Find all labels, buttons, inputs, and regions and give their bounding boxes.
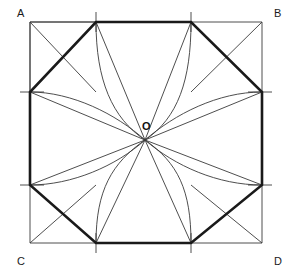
label-O-center: O — [142, 120, 151, 132]
label-C: C — [17, 255, 25, 267]
tick-marks-group — [20, 12, 272, 253]
label-B: B — [274, 7, 281, 19]
octagon-path — [30, 22, 262, 243]
geometry-figure: A B C D O — [0, 0, 291, 275]
label-D: D — [274, 255, 282, 267]
ray-right-upper-to-O — [145, 92, 262, 140]
ray-left-lower-to-O — [30, 140, 145, 185]
inscribed-octagon — [30, 22, 262, 243]
geometry-canvas: A B C D O — [0, 0, 291, 275]
label-A: A — [17, 7, 25, 19]
